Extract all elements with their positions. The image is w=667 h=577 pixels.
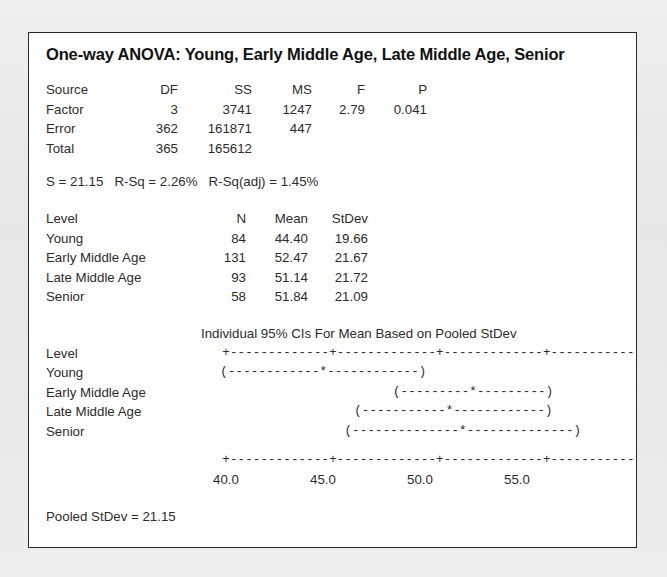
cell-level: Senior [46, 287, 212, 307]
cell-df: 362 [130, 119, 178, 139]
table-row: Senior 58 51.84 21.09 [46, 287, 368, 307]
col-header-ms: MS [252, 80, 312, 100]
cell-ms: 447 [252, 119, 312, 139]
ci-row-late-middle-age: Late Middle Age (-----------*-----------… [46, 402, 630, 422]
level-summary-table: Level N Mean StDev Young 84 44.40 19.66 … [46, 209, 368, 307]
ci-axis-bottom-row: +-------------+-------------+-----------… [46, 451, 630, 471]
output-content: One-way ANOVA: Young, Early Middle Age, … [46, 43, 630, 547]
spacer [46, 192, 630, 209]
cell-mean: 52.47 [246, 248, 308, 268]
table-header-row: Source DF SS MS F P [46, 80, 427, 100]
ci-interval-art: (-----------*------------) [354, 402, 553, 422]
cell-level: Early Middle Age [46, 248, 212, 268]
col-header-ss: SS [178, 80, 252, 100]
ci-interval-art: (--------------*--------------) [344, 422, 581, 442]
ci-axis-top-art: +-------------+-------------+-----------… [222, 344, 637, 364]
cell-level: Late Middle Age [46, 268, 212, 288]
ci-axis-tick-labels: 40.0 45.0 50.0 55.0 [46, 470, 630, 490]
spacer [46, 71, 630, 80]
cell-source: Error [46, 119, 130, 139]
cell-mean: 44.40 [246, 229, 308, 249]
col-header-n: N [212, 209, 246, 229]
col-header-f: F [312, 80, 365, 100]
tick-label-45: 45.0 [310, 470, 336, 490]
spacer [46, 490, 630, 507]
tick-label-40: 40.0 [213, 470, 239, 490]
cell-source: Total [46, 139, 130, 159]
ci-row-label: Early Middle Age [46, 383, 146, 403]
col-header-df: DF [130, 80, 178, 100]
cell-stdev: 21.67 [308, 248, 368, 268]
confidence-interval-plot: Individual 95% CIs For Mean Based on Poo… [46, 324, 630, 490]
table-row: Error 362 161871 447 [46, 119, 427, 139]
cell-n: 84 [212, 229, 246, 249]
pooled-stdev-line: Pooled StDev = 21.15 [46, 507, 630, 527]
cell-level: Young [46, 229, 212, 249]
anova-source-table: Source DF SS MS F P Factor 3 3741 1247 2… [46, 80, 427, 158]
cell-n: 93 [212, 268, 246, 288]
ci-axis-top-row: Level +-------------+-------------+-----… [46, 344, 630, 364]
spacer [46, 442, 630, 451]
ci-level-column-header: Level [46, 344, 78, 364]
table-row: Total 365 165612 [46, 139, 427, 159]
cell-df: 365 [130, 139, 178, 159]
col-header-source: Source [46, 80, 130, 100]
cell-ms: 1247 [252, 100, 312, 120]
ci-axis-bottom-art: +-------------+-------------+-----------… [222, 451, 637, 471]
ci-interval-art: (---------*---------) [393, 383, 553, 403]
tick-label-50: 50.0 [407, 470, 433, 490]
ci-row-label: Senior [46, 422, 84, 442]
ci-row-senior: Senior (--------------*--------------) [46, 422, 630, 442]
ci-row-label: Late Middle Age [46, 402, 141, 422]
col-header-p: P [365, 80, 427, 100]
col-header-stdev: StDev [308, 209, 368, 229]
tick-label-55: 55.0 [504, 470, 530, 490]
spacer [46, 158, 630, 172]
cell-p [365, 139, 427, 159]
table-row: Late Middle Age 93 51.14 21.72 [46, 268, 368, 288]
cell-ss: 165612 [178, 139, 252, 159]
ci-row-young: Young (------------*------------) [46, 363, 630, 383]
anova-output-panel: One-way ANOVA: Young, Early Middle Age, … [28, 32, 637, 548]
cell-n: 131 [212, 248, 246, 268]
cell-stdev: 19.66 [308, 229, 368, 249]
cell-f: 2.79 [312, 100, 365, 120]
cell-stdev: 21.72 [308, 268, 368, 288]
cell-df: 3 [130, 100, 178, 120]
cell-mean: 51.84 [246, 287, 308, 307]
cell-p [365, 119, 427, 139]
col-header-level: Level [46, 209, 212, 229]
ci-row-label: Young [46, 363, 83, 383]
cell-f [312, 119, 365, 139]
cell-source: Factor [46, 100, 130, 120]
cell-mean: 51.14 [246, 268, 308, 288]
cell-p: 0.041 [365, 100, 427, 120]
model-summary-line: S = 21.15 R-Sq = 2.26% R-Sq(adj) = 1.45% [46, 172, 630, 192]
cell-ms [252, 139, 312, 159]
col-header-mean: Mean [246, 209, 308, 229]
ci-interval-art: (------------*------------) [220, 363, 426, 383]
table-row: Early Middle Age 131 52.47 21.67 [46, 248, 368, 268]
ci-row-early-middle-age: Early Middle Age (---------*---------) [46, 383, 630, 403]
cell-stdev: 21.09 [308, 287, 368, 307]
cell-f [312, 139, 365, 159]
cell-ss: 3741 [178, 100, 252, 120]
table-row: Young 84 44.40 19.66 [46, 229, 368, 249]
spacer [46, 307, 630, 324]
ci-plot-header: Individual 95% CIs For Mean Based on Poo… [201, 324, 630, 344]
page-title: One-way ANOVA: Young, Early Middle Age, … [46, 43, 630, 65]
table-row: Factor 3 3741 1247 2.79 0.041 [46, 100, 427, 120]
table-header-row: Level N Mean StDev [46, 209, 368, 229]
cell-n: 58 [212, 287, 246, 307]
cell-ss: 161871 [178, 119, 252, 139]
